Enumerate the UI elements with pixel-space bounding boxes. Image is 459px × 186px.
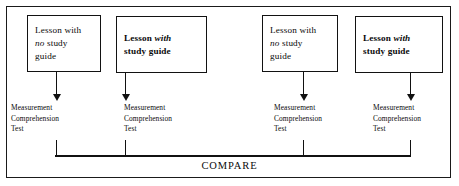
test-label-2: MeasurementComprehensionTest [124, 103, 172, 135]
lesson-1-line1: Lesson with [35, 25, 81, 35]
test-2-line1: Measurement [124, 103, 165, 112]
bracket-tick-3 [303, 140, 305, 156]
lesson-box-2-text: Lesson withstudy guide [124, 32, 171, 57]
test-2-line3: Test [124, 124, 137, 133]
lesson-2-line2: study guide [124, 46, 171, 56]
test-3-line1: Measurement [274, 103, 315, 112]
lesson-box-1-text: Lesson withno studyguide [35, 24, 81, 62]
test-4-line2: Comprehension [373, 114, 421, 123]
lesson-box-4: Lesson withstudy guide [355, 16, 443, 73]
test-2-line2: Comprehension [124, 114, 172, 123]
lesson-1-line2b: study [47, 38, 68, 48]
experimental-design-diagram: Lesson withno studyguide MeasurementComp… [0, 0, 459, 186]
test-1-line3: Test [11, 124, 24, 133]
test-3-line3: Test [274, 124, 287, 133]
lesson-2-line1: Lesson [124, 33, 152, 43]
test-4-line3: Test [373, 124, 386, 133]
lesson-3-line1: Lesson with [270, 25, 316, 35]
lesson-4-italic: with [393, 33, 410, 43]
lesson-4-line1: Lesson [363, 33, 391, 43]
lesson-1-italic: no [35, 38, 45, 48]
compare-label: COMPARE [0, 160, 459, 171]
bracket-tick-4 [410, 140, 412, 156]
lesson-box-3: Lesson withno studyguide [262, 15, 338, 72]
lesson-3-line3: guide [270, 51, 291, 61]
lesson-4-line2: study guide [363, 46, 410, 56]
bracket-tick-2 [125, 140, 127, 156]
bracket-tick-1 [56, 140, 58, 156]
bracket-rail [55, 155, 411, 157]
lesson-3-italic: no [270, 38, 280, 48]
test-label-1: MeasurementComprehensionTest [11, 103, 59, 135]
lesson-box-4-text: Lesson withstudy guide [363, 32, 410, 57]
lesson-3-line2b: study [282, 38, 303, 48]
test-1-line2: Comprehension [11, 114, 59, 123]
test-4-line1: Measurement [373, 103, 414, 112]
lesson-box-1: Lesson withno studyguide [27, 15, 101, 72]
test-3-line2: Comprehension [274, 114, 322, 123]
test-label-4: MeasurementComprehensionTest [373, 103, 421, 135]
lesson-1-line3: guide [35, 51, 56, 61]
lesson-box-3-text: Lesson withno studyguide [270, 24, 316, 62]
lesson-box-2: Lesson withstudy guide [116, 16, 207, 73]
test-label-3: MeasurementComprehensionTest [274, 103, 322, 135]
test-1-line1: Measurement [11, 103, 52, 112]
lesson-2-italic: with [154, 33, 171, 43]
